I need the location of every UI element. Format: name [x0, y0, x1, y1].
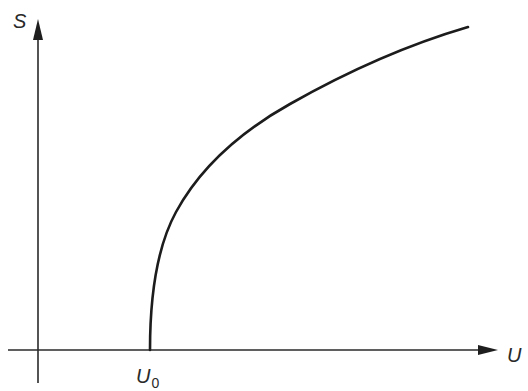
threshold-label-subscript: 0 — [151, 375, 159, 391]
x-axis-arrow-icon — [478, 345, 498, 355]
x-axis-label: U — [507, 345, 521, 365]
y-axis-arrow-icon — [33, 19, 43, 40]
s-of-u-curve — [150, 27, 468, 350]
threshold-label-main: U — [136, 365, 150, 387]
threshold-curve-diagram — [0, 0, 528, 391]
threshold-label: U0 — [136, 366, 159, 390]
y-axis-label: S — [13, 11, 26, 31]
